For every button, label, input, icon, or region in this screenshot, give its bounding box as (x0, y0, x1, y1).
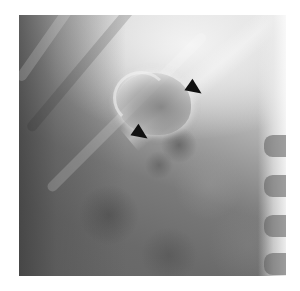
vertebra (264, 175, 286, 197)
mass-rim (113, 71, 169, 125)
bowel-gas-mottle (19, 15, 286, 276)
vertebra (264, 253, 286, 275)
vertebra (264, 135, 286, 157)
vertebra (264, 215, 286, 237)
radiograph-image (19, 15, 286, 276)
